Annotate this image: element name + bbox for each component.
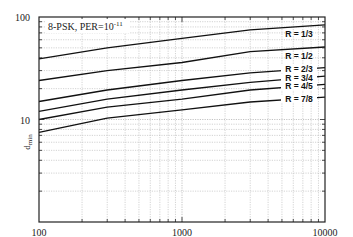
y-tick-10: 10: [20, 115, 30, 126]
rate-label: R = 1/2: [285, 51, 313, 61]
x-tick-1000: 1000: [172, 227, 192, 237]
y-tick-100: 100: [15, 12, 30, 23]
svg-text:dmin: dmin: [22, 134, 34, 150]
x-tick-100: 100: [32, 227, 47, 237]
title-main: 8-PSK, PER=10: [48, 21, 114, 32]
y-axis-label: dmin: [22, 134, 34, 150]
chart-title: 8-PSK, PER=10-11: [48, 20, 123, 32]
ylabel-subscript: min: [26, 134, 34, 145]
x-tick-10000: 10000: [313, 227, 338, 237]
title-exponent: -11: [114, 20, 124, 28]
rate-labels: R = 1/3R = 1/2R = 2/3R = 3/4R = 4/5R = 7…: [281, 29, 317, 103]
grid-lines: [39, 17, 325, 222]
rate-label: R = 4/5: [285, 81, 313, 91]
rate-label: R = 1/3: [285, 29, 313, 39]
dmin-chart: R = 1/3R = 1/2R = 2/3R = 3/4R = 4/5R = 7…: [0, 0, 353, 237]
rate-label: R = 7/8: [285, 94, 313, 104]
